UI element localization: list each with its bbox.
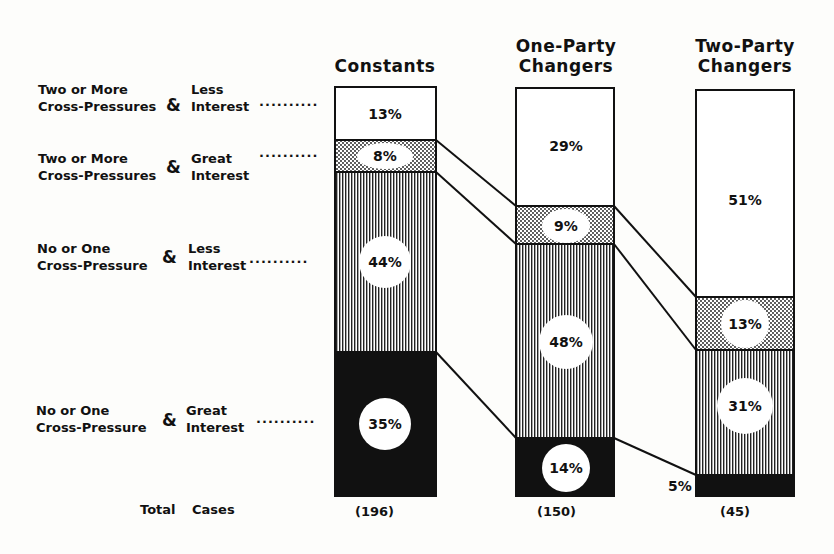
column-title-line: Two-Party [655, 36, 834, 56]
svg-text:29%: 29% [549, 138, 583, 154]
svg-text:48%: 48% [549, 334, 583, 350]
ampersand: & [162, 410, 177, 430]
legend-text: Less [191, 81, 224, 98]
total-cases-constants: (196) [355, 504, 394, 519]
legend-text: Interest [191, 167, 249, 184]
svg-text:35%: 35% [368, 416, 402, 432]
column-title-constants: Constants [295, 56, 475, 76]
legend-text: Cross-Pressures [38, 167, 156, 184]
legend-text: Cross-Pressure [37, 257, 147, 274]
svg-text:13%: 13% [728, 316, 762, 332]
legend-text: Cross-Pressure [36, 419, 146, 436]
column-title-line: One-Party [476, 36, 656, 56]
legend-text: Two or More [38, 81, 128, 98]
legend-text: Great [186, 402, 227, 419]
dotted-leader: ·········· [259, 148, 318, 163]
legend-text: Two or More [38, 150, 128, 167]
svg-text:5%: 5% [668, 478, 692, 494]
svg-text:13%: 13% [368, 106, 402, 122]
dotted-leader: ·········· [249, 254, 308, 269]
column-title-one-party: One-Party Changers [476, 36, 656, 76]
column-title-line: Constants [295, 56, 475, 76]
legend-text: Less [188, 240, 221, 257]
column-title-two-party: Two-Party Changers [655, 36, 834, 76]
dotted-leader: ·········· [256, 414, 315, 429]
bar-two-party-changers [696, 90, 794, 496]
dotted-leader: ·········· [259, 97, 318, 112]
column-title-line: Changers [655, 56, 834, 76]
svg-text:8%: 8% [373, 148, 397, 164]
column-title-line: Changers [476, 56, 656, 76]
legend-text: Great [191, 150, 232, 167]
legend-text: Interest [188, 257, 246, 274]
svg-text:31%: 31% [728, 398, 762, 414]
svg-text:51%: 51% [728, 192, 762, 208]
legend-text: No or One [37, 240, 110, 257]
legend-text: Interest [191, 98, 249, 115]
total-cases-label: Total Cases [140, 502, 235, 517]
legend-text: Cross-Pressures [38, 98, 156, 115]
legend-text: Interest [186, 419, 244, 436]
ampersand: & [162, 247, 177, 267]
svg-text:14%: 14% [549, 460, 583, 476]
total-cases-one-party: (150) [537, 504, 576, 519]
svg-text:9%: 9% [554, 218, 578, 234]
svg-text:44%: 44% [368, 254, 402, 270]
legend-text: No or One [36, 402, 109, 419]
total-cases-two-party: (45) [720, 504, 750, 519]
ampersand: & [166, 157, 181, 177]
ampersand: & [166, 95, 181, 115]
